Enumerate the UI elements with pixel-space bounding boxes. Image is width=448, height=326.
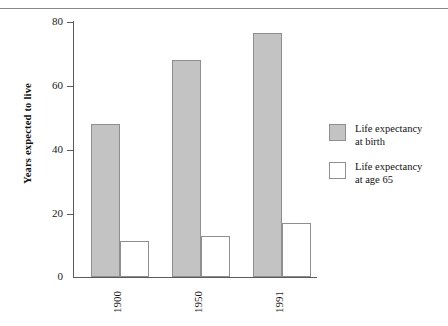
y-tick-label-80-wrap: 80 [30, 16, 63, 27]
chart-legend: Life expectancy at birth Life expectancy… [329, 123, 441, 199]
y-tick-label-20: 20 [33, 208, 63, 219]
bar-1991-birth [253, 33, 282, 277]
y-tick-label-40-wrap: 40 [30, 144, 63, 155]
y-axis-title: Years expected to live [22, 69, 33, 199]
x-tick-label-1991: 1991 [273, 276, 285, 326]
bar-1991-age65 [282, 223, 311, 277]
bar-1900-age65 [120, 241, 149, 277]
y-tick-label-0-wrap: 0 [30, 271, 63, 282]
legend-label-age65-line2: at age 65 [355, 174, 422, 187]
legend-label-birth: Life expectancy at birth [355, 123, 422, 148]
legend-label-age65: Life expectancy at age 65 [355, 161, 422, 186]
legend-item-birth: Life expectancy at birth [329, 123, 441, 148]
x-tick-1991-wrap: 1991 [259, 282, 299, 322]
top-horizontal-rule [0, 8, 448, 9]
legend-swatch-birth-icon [329, 124, 346, 141]
legend-item-age65: Life expectancy at age 65 [329, 161, 441, 186]
legend-swatch-age65-icon [329, 162, 346, 179]
bar-1950-age65 [201, 236, 230, 277]
legend-label-birth-line1: Life expectancy [355, 123, 422, 134]
bar-chart-figure: 80 60 40 20 0 Years expected to live [0, 0, 448, 326]
legend-label-birth-line2: at birth [355, 136, 422, 149]
x-tick-1950-wrap: 1950 [178, 282, 218, 322]
x-tick-1900-wrap: 1900 [97, 282, 137, 322]
y-tick-label-60-wrap: 60 [30, 80, 63, 91]
x-tick-label-1950: 1950 [192, 276, 204, 326]
bar-1950-birth [172, 60, 201, 277]
y-tick-label-40: 40 [33, 144, 63, 155]
y-tick-label-60: 60 [33, 80, 63, 91]
y-tick-label-0: 0 [33, 271, 63, 282]
bar-1900-birth [91, 124, 120, 277]
x-tick-label-1900: 1900 [111, 276, 123, 326]
plot-area [73, 22, 316, 277]
legend-label-age65-line1: Life expectancy [355, 161, 422, 172]
y-tick-label-20-wrap: 20 [30, 208, 63, 219]
y-tick-label-80: 80 [33, 16, 63, 27]
